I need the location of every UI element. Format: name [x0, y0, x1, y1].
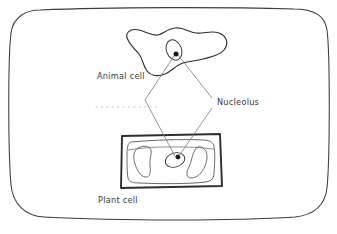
plant-cell-shape [121, 134, 222, 188]
outer-frame [9, 8, 330, 220]
label-plant-cell: Plant cell [98, 195, 138, 205]
label-animal-cell: Animal cell [97, 71, 145, 81]
leader-animal-to-plant-nucleus [145, 100, 176, 158]
leader-nucleolus-to-animal [178, 55, 212, 98]
animal-cell-shape [127, 28, 227, 76]
plant-cell-vacuole-right [187, 147, 207, 178]
animal-cell-nucleus [163, 37, 185, 62]
cell-diagram-canvas: Animal cell Nucleolus Plant cell [0, 0, 337, 234]
label-nucleolus: Nucleolus [217, 97, 259, 107]
frame-border-path [9, 8, 330, 220]
plant-cell-nucleus [163, 150, 186, 169]
leader-lines [145, 55, 212, 158]
cell-diagram-svg: Animal cell Nucleolus Plant cell [0, 0, 337, 234]
plant-cell-membrane [127, 140, 215, 184]
animal-cell-nucleolus [174, 52, 179, 57]
leader-animal-nucleolus-left [145, 56, 174, 100]
plant-cell-vacuole-left [134, 146, 151, 177]
